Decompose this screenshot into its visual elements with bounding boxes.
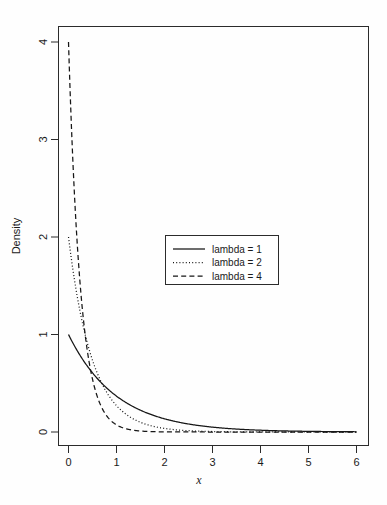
x-tick-label: 6 — [353, 456, 359, 468]
x-axis-title: x — [195, 473, 202, 487]
y-tick-label: 4 — [37, 39, 49, 45]
exponential-density-plot: 01234 0123456 Density x lambda = 1lambda… — [0, 0, 387, 505]
x-tick-label: 1 — [113, 456, 119, 468]
x-tick-label: 2 — [161, 456, 167, 468]
x-tick-label: 5 — [305, 456, 311, 468]
legend-label-lambda-1: lambda = 1 — [212, 244, 262, 255]
legend: lambda = 1lambda = 2lambda = 4 — [166, 236, 279, 285]
x-tick-label: 0 — [65, 456, 71, 468]
y-tick-label: 1 — [37, 331, 49, 337]
legend-label-lambda-4: lambda = 4 — [212, 271, 262, 282]
y-tick-label: 2 — [37, 234, 49, 240]
y-tick-label: 0 — [37, 429, 49, 435]
x-tick-label: 4 — [257, 456, 263, 468]
chart-figure: 01234 0123456 Density x lambda = 1lambda… — [0, 0, 387, 505]
legend-label-lambda-2: lambda = 2 — [212, 257, 262, 268]
x-tick-label: 3 — [209, 456, 215, 468]
y-tick-label: 3 — [37, 136, 49, 142]
y-axis-title: Density — [10, 217, 22, 254]
